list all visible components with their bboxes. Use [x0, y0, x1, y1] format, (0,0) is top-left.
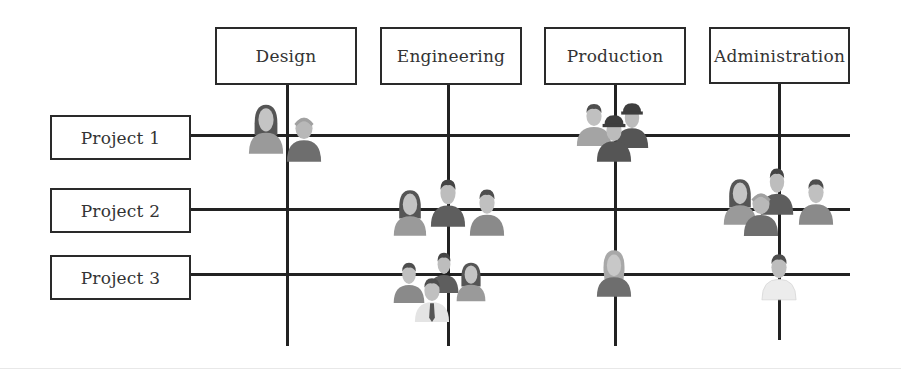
person-icon	[468, 185, 506, 238]
department-label: Production	[567, 46, 664, 66]
person-icon	[455, 259, 487, 303]
person-icon	[429, 175, 467, 229]
person-icon	[595, 112, 633, 164]
project-box-1: Project 1	[50, 115, 191, 160]
page-bottom-rule	[0, 368, 901, 369]
department-label: Engineering	[397, 46, 505, 66]
department-label: Administration	[714, 46, 845, 66]
project-line-3	[190, 273, 850, 276]
department-label: Design	[256, 46, 317, 66]
person-icon	[285, 112, 323, 164]
department-box-production: Production	[544, 27, 686, 85]
person-icon	[247, 100, 285, 156]
department-box-administration: Administration	[709, 27, 850, 84]
project-label: Project 2	[81, 201, 161, 221]
person-icon	[760, 250, 798, 302]
project-label: Project 1	[81, 128, 161, 148]
department-box-engineering: Engineering	[380, 27, 522, 85]
person-icon	[595, 247, 633, 299]
person-icon	[413, 274, 451, 324]
person-icon	[392, 186, 428, 238]
project-label: Project 3	[81, 268, 161, 288]
person-icon	[742, 188, 780, 238]
project-box-2: Project 2	[50, 188, 191, 233]
project-box-3: Project 3	[50, 255, 191, 300]
department-box-design: Design	[215, 27, 357, 85]
person-icon	[797, 175, 835, 227]
